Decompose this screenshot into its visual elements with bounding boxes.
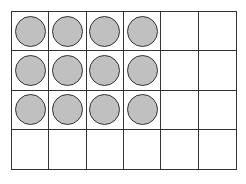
grid-cell (87, 130, 124, 169)
grid-cell (49, 12, 86, 51)
counting-frame (11, 11, 237, 170)
grid-cell (12, 12, 49, 51)
grid-cell (161, 91, 198, 130)
grid-cell (199, 130, 236, 169)
counter-circle-icon (52, 16, 83, 47)
grid-cell (161, 12, 198, 51)
grid-cell (124, 130, 161, 169)
counter-circle-icon (127, 94, 158, 125)
counter-circle-icon (127, 55, 158, 86)
grid-cell (124, 12, 161, 51)
counter-circle-icon (89, 16, 120, 47)
grid-cell (199, 51, 236, 90)
grid-cell (12, 51, 49, 90)
counter-circle-icon (89, 94, 120, 125)
grid-cell (87, 12, 124, 51)
grid-cell (12, 130, 49, 169)
grid-cell (87, 51, 124, 90)
counter-circle-icon (52, 55, 83, 86)
ten-frame-grid (11, 11, 237, 170)
counter-circle-icon (89, 55, 120, 86)
grid-cell (161, 130, 198, 169)
grid-cell (124, 51, 161, 90)
counter-circle-icon (15, 55, 46, 86)
grid-cell (161, 51, 198, 90)
grid-cell (49, 51, 86, 90)
grid-cell (199, 12, 236, 51)
grid-cell (49, 130, 86, 169)
counter-circle-icon (52, 94, 83, 125)
grid-cell (124, 91, 161, 130)
counter-circle-icon (15, 94, 46, 125)
grid-cell (199, 91, 236, 130)
counter-circle-icon (127, 16, 158, 47)
grid-cell (49, 91, 86, 130)
counter-circle-icon (15, 16, 46, 47)
grid-cell (12, 91, 49, 130)
grid-cell (87, 91, 124, 130)
